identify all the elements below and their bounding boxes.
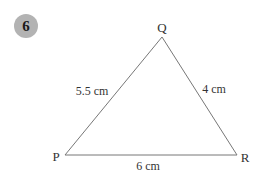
side-label-pq: 5.5 cm — [76, 84, 109, 98]
question-number: 6 — [22, 18, 30, 34]
side-label-qr: 4 cm — [202, 82, 226, 96]
side-qr — [162, 37, 237, 155]
vertex-label-q: Q — [157, 20, 167, 35]
vertex-label-r: R — [241, 150, 250, 165]
question-number-badge: 6 — [14, 14, 38, 38]
vertex-label-p: P — [52, 149, 59, 164]
triangle-diagram: 6 Q P R 5.5 cm 4 cm 6 cm — [0, 0, 264, 176]
side-label-pr: 6 cm — [136, 159, 160, 173]
